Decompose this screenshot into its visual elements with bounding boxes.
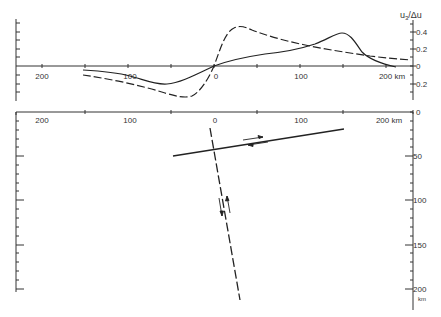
bottom-map-panel: 200 100 0 100 200 km	[16, 108, 427, 310]
top-y-title: u3/Δu	[400, 10, 422, 21]
bottom-right-axis-ticks	[405, 112, 413, 289]
solid-displacement-curve	[83, 33, 396, 84]
top-y-label-0: 0	[416, 62, 421, 71]
bottom-y-label-0: 0	[416, 108, 421, 117]
top-x-label-100-right: 100	[294, 72, 308, 81]
bottom-x-label-100-right: 100	[294, 116, 308, 125]
top-y-label-0.4: 0.4	[416, 28, 428, 37]
bottom-x-label-200-right: 200 km	[376, 116, 403, 125]
figure: 200 100 0 100 200 km u3/Δu 0.4 0.2 0 0.2…	[0, 0, 441, 317]
top-x-label-200-right: 200 km	[379, 72, 406, 81]
top-x-label-0: 0	[214, 72, 219, 81]
bottom-x-label-100-left: 100	[123, 116, 137, 125]
bottom-x-label-200-left: 200	[35, 116, 49, 125]
top-y-label-neg-0.2: 0.2	[416, 80, 428, 89]
solid-fault-trace	[173, 129, 344, 156]
bottom-y-label-150: 150	[413, 241, 427, 250]
bottom-x-label-0: 0	[213, 116, 218, 125]
bottom-y-label-200: 200	[413, 285, 427, 294]
dashed-fault-trace	[210, 128, 240, 300]
top-y-label-0.2: 0.2	[416, 45, 428, 54]
bottom-left-axis-ticks	[16, 121, 24, 289]
bottom-y-label-100: 100	[413, 196, 427, 205]
top-profile-panel: 200 100 0 100 200 km u3/Δu 0.4 0.2 0 0.2	[16, 10, 428, 101]
dashed-displacement-curve	[83, 27, 411, 97]
top-x-label-200-left: 200	[35, 72, 49, 81]
top-left-axis-ticks	[16, 23, 20, 92]
bottom-y-label-50: 50	[413, 152, 422, 161]
bottom-y-unit: km	[418, 296, 426, 302]
